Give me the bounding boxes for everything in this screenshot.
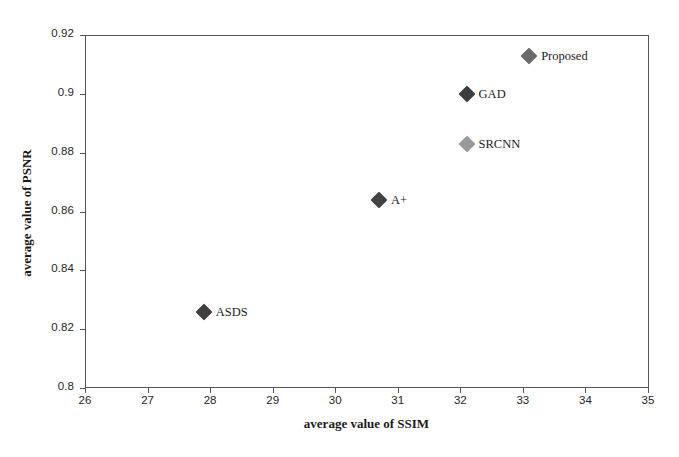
data-point-label: ASDS [216,304,248,319]
y-tick-label: 0.84 [0,262,74,274]
x-tick-label: 33 [503,394,543,406]
x-tick-label: 31 [378,394,418,406]
data-point-label: SRCNN [479,136,521,151]
x-tick-label: 35 [628,394,668,406]
x-tick-label: 26 [65,394,105,406]
data-point-label: Proposed [541,48,588,63]
x-tick-mark [335,388,336,393]
y-tick-label: 0.86 [0,204,74,216]
y-tick-mark [80,212,85,213]
x-tick-mark [460,388,461,393]
y-tick-mark [80,35,85,36]
y-tick-mark [80,94,85,95]
plot-frame-right [648,35,649,388]
plot-frame-top [85,35,648,36]
x-tick-label: 27 [128,394,168,406]
x-tick-mark [398,388,399,393]
y-tick-label: 0.82 [0,321,74,333]
x-tick-mark [523,388,524,393]
x-tick-label: 32 [440,394,480,406]
y-tick-mark [80,329,85,330]
y-tick-label: 0.92 [0,27,74,39]
plot-area [85,35,648,388]
data-point-label: A+ [391,192,407,207]
x-tick-label: 34 [565,394,605,406]
y-tick-mark [80,270,85,271]
scatter-chart-figure: 0.920.90.880.860.840.820.8 2627282930313… [0,0,679,457]
x-tick-label: 28 [190,394,230,406]
y-tick-label: 0.9 [0,86,74,98]
y-axis-title: average value of PSNR [19,113,35,313]
data-point-label: GAD [479,86,506,101]
y-tick-label: 0.88 [0,145,74,157]
y-tick-label: 0.8 [0,380,74,392]
x-tick-mark [148,388,149,393]
x-tick-mark [85,388,86,393]
y-tick-mark [80,153,85,154]
x-tick-label: 30 [315,394,355,406]
x-axis-title: average value of SSIM [85,416,648,432]
x-tick-label: 29 [253,394,293,406]
x-tick-mark [648,388,649,393]
x-tick-mark [273,388,274,393]
x-tick-mark [585,388,586,393]
x-tick-mark [210,388,211,393]
